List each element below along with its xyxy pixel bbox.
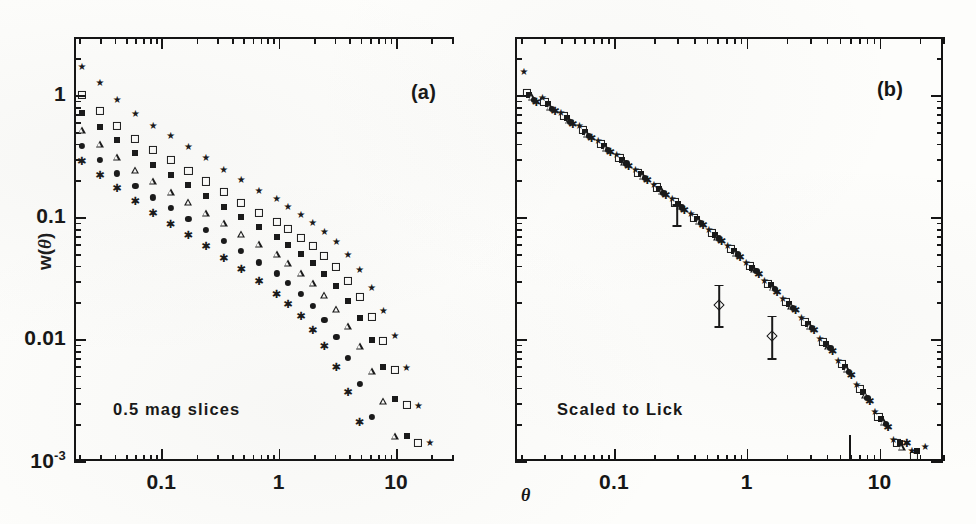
axis-tick [574,455,576,462]
data-point-asterisk: ✱ [148,208,159,219]
axis-tick [273,37,275,44]
data-point-open-square [344,277,352,285]
y-axis-tick-label-base: 10 [30,449,54,472]
data-point-asterisk: ✱ [605,147,616,158]
axis-tick [734,37,736,44]
data-point-open-square [356,293,364,301]
data-point-open-triangle [344,322,352,329]
axis-tick [561,455,563,462]
axis-tick [243,37,245,44]
axis-tick [937,229,944,231]
axis-tick [920,455,922,462]
data-point-open-square [131,135,139,143]
data-point-star: ★ [283,201,294,212]
axis-tick [197,455,199,462]
axis-tick [74,266,81,268]
axis-tick [515,107,522,109]
data-point-open-square [220,188,228,196]
axis-tick [515,266,522,268]
axis-tick [717,37,719,44]
axis-tick [126,455,128,462]
data-point-open-square [78,91,86,99]
axis-tick [654,455,656,462]
axis-tick [314,455,316,462]
axis-tick [156,455,158,462]
data-point-filled-square [392,396,398,402]
axis-tick [937,144,944,146]
axis-tick [601,37,603,44]
axis-tick [827,37,829,44]
axis-tick [515,281,522,283]
axis-tick [544,455,546,462]
error-bar-cap [768,316,777,318]
data-point-star: ★ [331,237,342,248]
data-point-star: ★ [518,67,529,78]
axis-tick [937,236,944,238]
axis-tick [937,132,944,134]
data-point-filled-square [168,172,174,178]
axis-tick [694,37,696,44]
axis-tick [515,58,522,60]
axis-tick [74,101,81,103]
data-point-open-square [320,252,328,260]
error-bar [677,204,679,225]
data-point-filled-square [203,193,209,199]
data-point-filled-square [97,124,103,130]
data-point-open-triangle [297,269,305,276]
error-bar-cap [715,285,724,287]
axis-tick [849,435,851,461]
axis-tick [385,37,387,44]
axis-tick [937,351,944,353]
axis-tick [74,180,81,182]
x-axis-tick-label: 0.1 [594,470,634,494]
data-point-star: ★ [183,142,194,153]
data-point-asterisk: ✱ [568,119,579,130]
axis-tick [515,180,522,182]
axis-tick [267,455,269,462]
axis-tick [741,455,743,462]
axis-tick [515,461,527,463]
axis-tick [654,37,656,44]
axis-tick [561,37,563,44]
axis-tick [937,266,944,268]
data-point-filled-square [114,137,120,143]
axis-tick [937,376,944,378]
axis-tick [707,37,709,44]
axis-tick [827,455,829,462]
data-point-filled-square [321,271,327,277]
data-point-asterisk: ✱ [95,170,106,181]
data-point-open-triangle [113,154,121,161]
axis-tick [515,403,522,405]
y-axis-tick-label-exponent: -3 [54,448,66,463]
axis-tick [391,37,393,44]
axis-tick [74,424,81,426]
axis-tick [150,455,152,462]
axis-tick [74,376,81,378]
axis-tick [361,455,363,462]
axis-tick [156,37,158,44]
axis-tick [74,358,81,360]
axis-tick [515,223,522,225]
data-point-star: ★ [165,131,176,142]
data-point-star: ★ [95,78,106,89]
axis-tick [74,236,81,238]
axis-tick [232,37,234,44]
data-point-star: ★ [148,120,159,131]
axis-tick [859,455,861,462]
axis-tick [370,455,372,462]
data-point-asterisk: ✱ [735,252,746,263]
axis-tick [515,229,522,231]
data-point-open-triangle [220,220,228,227]
axis-tick [694,455,696,462]
data-point-asterisk: ✱ [901,438,912,449]
axis-tick [734,455,736,462]
axis-tick [937,58,944,60]
axis-tick [880,37,882,49]
x-axis-tick-label: 10 [860,470,900,494]
axis-tick [253,37,255,44]
axis-tick [74,461,86,463]
data-point-open-triangle [356,342,364,349]
axis-tick [810,455,812,462]
data-point-star: ★ [354,264,365,275]
data-point-asterisk: ✱ [307,325,318,336]
